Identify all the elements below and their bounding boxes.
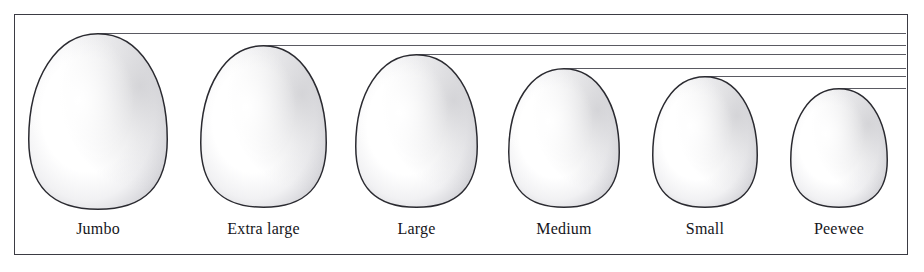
egg-shape-icon xyxy=(508,68,620,208)
egg-label-extra-large: Extra large xyxy=(190,220,337,238)
egg-small xyxy=(652,76,758,208)
egg-label-medium: Medium xyxy=(496,220,632,238)
egg-extra-large xyxy=(200,45,327,208)
egg-shape-icon xyxy=(790,88,888,208)
egg-peewee xyxy=(790,88,888,208)
egg-shape-icon xyxy=(355,54,478,208)
egg-medium xyxy=(508,68,620,208)
egg-label-peewee: Peewee xyxy=(778,220,900,238)
guide-line-large xyxy=(417,54,907,55)
egg-size-chart: JumboExtra largeLargeMediumSmallPeewee xyxy=(0,0,924,272)
egg-jumbo xyxy=(28,33,168,210)
egg-label-jumbo: Jumbo xyxy=(28,220,168,238)
guide-line-jumbo xyxy=(98,33,906,34)
egg-large xyxy=(355,54,478,208)
egg-shape-icon xyxy=(28,33,168,210)
egg-shape-icon xyxy=(200,45,327,208)
guide-line-extra-large xyxy=(264,45,907,46)
egg-label-small: Small xyxy=(642,220,768,238)
egg-label-large: Large xyxy=(349,220,484,238)
egg-shape-icon xyxy=(652,76,758,208)
